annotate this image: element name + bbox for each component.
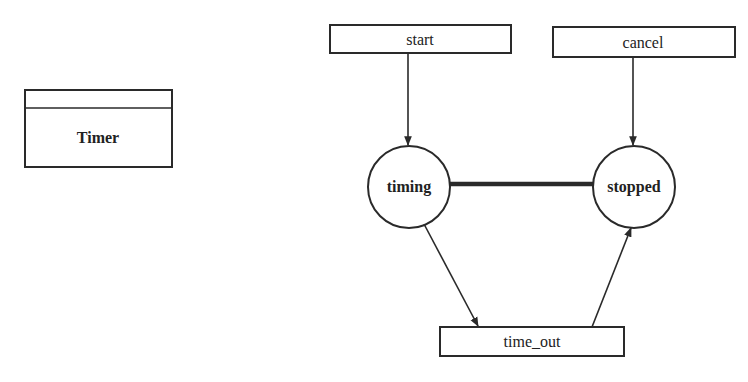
event-cancel-box: cancel: [553, 27, 735, 57]
diagram-canvas: Timer start cancel timing stopped time_o…: [0, 0, 748, 382]
event-time-out-label: time_out: [504, 333, 561, 350]
event-cancel-label: cancel: [623, 34, 664, 51]
state-timing-label: timing: [387, 178, 431, 196]
event-time-out-box: time_out: [440, 327, 624, 356]
timer-object-label: Timer: [77, 129, 119, 146]
state-stopped: stopped: [593, 146, 675, 228]
state-stopped-label: stopped: [607, 178, 660, 196]
timer-object-box: Timer: [25, 90, 172, 167]
arrow-timing-to-time-out: [424, 224, 478, 326]
state-timing: timing: [368, 146, 450, 228]
event-start-box: start: [330, 25, 511, 53]
event-start-label: start: [406, 31, 434, 48]
arrow-time-out-to-stopped: [592, 228, 631, 327]
